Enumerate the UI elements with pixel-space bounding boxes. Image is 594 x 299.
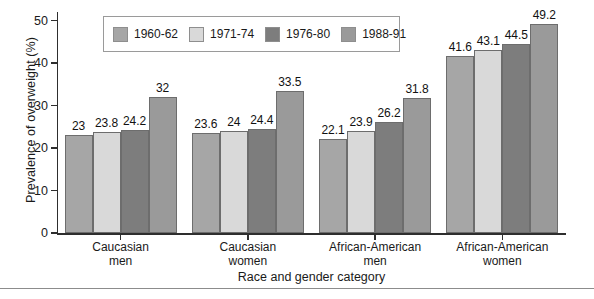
bar-value-label: 32 bbox=[143, 82, 183, 94]
bar bbox=[474, 50, 502, 233]
legend-label: 1971-74 bbox=[210, 27, 254, 41]
bar-chart-figure: Prevalence of overweight (%) 01020304050… bbox=[0, 0, 594, 299]
legend-label: 1988-91 bbox=[362, 27, 406, 41]
chart-legend: 1960-621971-741976-801988-91 bbox=[103, 16, 400, 52]
legend-swatch-icon bbox=[113, 27, 128, 42]
bar bbox=[403, 98, 431, 233]
legend-swatch-icon bbox=[189, 27, 204, 42]
bar bbox=[248, 129, 276, 233]
bar bbox=[192, 133, 220, 233]
bar bbox=[375, 122, 403, 233]
bar bbox=[276, 91, 304, 233]
bar-value-label: 33.5 bbox=[270, 76, 310, 88]
legend-item: 1988-91 bbox=[341, 27, 406, 42]
footer-divider bbox=[0, 288, 594, 289]
bar bbox=[93, 132, 121, 233]
bar bbox=[502, 44, 530, 233]
legend-label: 1976-80 bbox=[286, 27, 330, 41]
bar bbox=[319, 139, 347, 233]
bar bbox=[446, 56, 474, 233]
bar bbox=[530, 24, 558, 233]
x-axis-title: Race and gender category bbox=[57, 270, 566, 284]
legend-swatch-icon bbox=[265, 27, 280, 42]
legend-item: 1971-74 bbox=[189, 27, 254, 42]
bar bbox=[347, 131, 375, 233]
legend-item: 1976-80 bbox=[265, 27, 330, 42]
bar bbox=[149, 97, 177, 233]
bar bbox=[65, 135, 93, 233]
x-category-label: African-Americanwomen bbox=[439, 241, 566, 268]
legend-item: 1960-62 bbox=[113, 27, 178, 42]
legend-items: 1960-621971-741976-801988-91 bbox=[104, 17, 399, 51]
bar bbox=[220, 131, 248, 233]
x-category-label: Caucasianmen bbox=[57, 241, 184, 268]
legend-swatch-icon bbox=[341, 27, 356, 42]
legend-label: 1960-62 bbox=[134, 27, 178, 41]
bar bbox=[121, 130, 149, 233]
x-category-label: African-Americanmen bbox=[312, 241, 439, 268]
bar-value-label: 49.2 bbox=[524, 9, 564, 21]
x-category-label: Caucasianwomen bbox=[184, 241, 311, 268]
bar-value-label: 31.8 bbox=[397, 83, 437, 95]
